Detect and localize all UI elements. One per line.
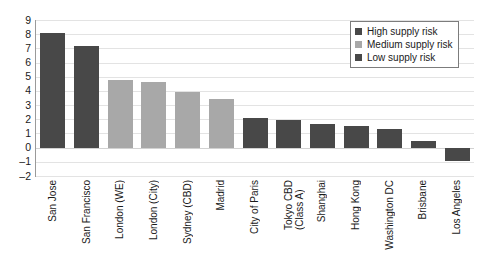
x-axis-tick-label: London (City) bbox=[148, 180, 159, 240]
y-axis-tick-label: –1 bbox=[6, 156, 31, 167]
x-axis-tick-label: Sydney (CBD) bbox=[182, 180, 193, 244]
y-axis-tick-label: 5 bbox=[6, 71, 31, 82]
x-axis-tick-label: Los Angeles bbox=[451, 180, 462, 235]
bar bbox=[108, 80, 133, 147]
legend-swatch-icon bbox=[355, 54, 362, 61]
y-axis-tick-label: 2 bbox=[6, 114, 31, 125]
y-axis-tick-label: 3 bbox=[6, 100, 31, 111]
y-axis-tick-label: 6 bbox=[6, 57, 31, 68]
gridline bbox=[36, 77, 474, 78]
x-axis-tick-label: Washington DC bbox=[384, 180, 395, 250]
chart-legend: High supply riskMedium supply riskLow su… bbox=[350, 21, 459, 68]
legend-item: Low supply risk bbox=[355, 51, 453, 64]
legend-label: Low supply risk bbox=[367, 52, 435, 63]
bar bbox=[141, 82, 166, 147]
y-axis-tick-label: 4 bbox=[6, 85, 31, 96]
gridline bbox=[36, 176, 474, 177]
x-axis-tick-label: San Francisco bbox=[81, 180, 92, 244]
bar bbox=[209, 99, 234, 147]
y-axis-tick-label: 1 bbox=[6, 128, 31, 139]
legend-swatch-icon bbox=[355, 28, 362, 35]
bar bbox=[276, 120, 301, 148]
legend-label: Medium supply risk bbox=[367, 39, 453, 50]
gridline bbox=[36, 91, 474, 92]
legend-swatch-icon bbox=[355, 41, 362, 48]
y-axis-tick-label: –2 bbox=[6, 171, 31, 182]
bar bbox=[74, 46, 99, 148]
bar bbox=[344, 126, 369, 148]
x-axis-tick-label: City of Paris bbox=[249, 180, 260, 234]
bar-chart: 9876543210–1–2 San JoseSan FranciscoLond… bbox=[0, 0, 479, 274]
legend-item: Medium supply risk bbox=[355, 38, 453, 51]
x-axis-tick-label: London (WE) bbox=[114, 180, 125, 239]
x-axis-tick-label: Madrid bbox=[215, 180, 226, 211]
gridline bbox=[36, 162, 474, 163]
x-axis-tick-label: Shanghai bbox=[316, 180, 327, 222]
bar bbox=[40, 33, 65, 148]
x-axis-tick-label: San Jose bbox=[47, 180, 58, 222]
x-axis-tick-labels: San JoseSan FranciscoLondon (WE)London (… bbox=[36, 180, 474, 274]
bar bbox=[175, 92, 200, 148]
gridline bbox=[36, 148, 474, 149]
x-axis-tick-label: Brisbane bbox=[417, 180, 428, 219]
x-axis-tick-label: Hong Kong bbox=[350, 180, 361, 230]
bar bbox=[377, 129, 402, 147]
y-axis-tick-label: 7 bbox=[6, 43, 31, 54]
gridline bbox=[36, 105, 474, 106]
bar bbox=[445, 148, 470, 161]
legend-item: High supply risk bbox=[355, 25, 453, 38]
y-axis-tick-label: 0 bbox=[6, 142, 31, 153]
y-axis-tick-label: 9 bbox=[6, 15, 31, 26]
bar bbox=[243, 118, 268, 148]
legend-label: High supply risk bbox=[367, 26, 438, 37]
y-axis-tick-label: 8 bbox=[6, 29, 31, 40]
bar bbox=[411, 141, 436, 148]
x-axis-tick-label: Tokyo CBD (Class A) bbox=[283, 180, 305, 230]
bar bbox=[310, 124, 335, 148]
